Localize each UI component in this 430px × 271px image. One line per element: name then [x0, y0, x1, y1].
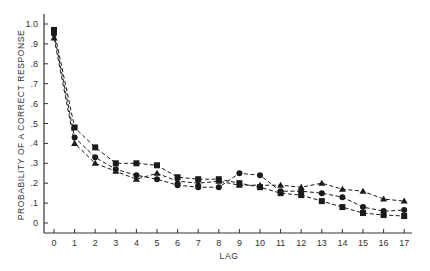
x-tick-label: 5 [154, 238, 159, 248]
x-tick-label: 3 [113, 238, 118, 248]
circle-marker [216, 184, 222, 190]
x-tick-label: 6 [175, 238, 180, 248]
y-tick-label: .4 [30, 138, 38, 148]
circle-marker [339, 194, 345, 200]
x-tick-label: 15 [358, 238, 368, 248]
x-tick-label: 2 [93, 238, 98, 248]
series-circle [51, 31, 407, 214]
y-tick-label: .1 [30, 198, 38, 208]
y-axis-title: PROBABILITY OF A CORRECT RESPONSE [16, 30, 26, 220]
circle-marker [257, 172, 263, 178]
x-tick-label: 1 [72, 238, 77, 248]
x-tick-label: 13 [317, 238, 327, 248]
x-tick-label: 14 [337, 238, 347, 248]
x-tick-label: 11 [276, 238, 285, 248]
axes: 0.1.2.3.4.5.6.7.8.91.0012345678910111213… [25, 14, 412, 248]
triangle-marker [154, 170, 161, 176]
series-line [54, 34, 404, 211]
y-tick-label: .9 [30, 39, 38, 49]
circle-marker [92, 154, 98, 160]
x-tick-label: 4 [134, 238, 139, 248]
circle-marker [401, 207, 407, 213]
y-tick-label: .7 [30, 79, 38, 89]
series-triangle [51, 34, 408, 203]
x-tick-label: 12 [296, 238, 306, 248]
x-tick-label: 8 [216, 238, 221, 248]
y-tick-label: .5 [30, 119, 38, 129]
triangle-marker [339, 186, 346, 192]
y-tick-label: 1.0 [25, 19, 38, 29]
y-tick-label: .8 [30, 59, 38, 69]
circle-marker [278, 188, 284, 194]
square-marker [92, 144, 98, 150]
x-tick-label: 9 [237, 238, 242, 248]
y-tick-label: .6 [30, 99, 38, 109]
series-square [51, 27, 407, 219]
square-marker [133, 160, 139, 166]
series-line [54, 38, 404, 201]
square-marker [401, 213, 407, 219]
circle-marker [236, 170, 242, 176]
y-tick-label: 0 [33, 218, 38, 228]
y-tick-label: .3 [30, 158, 38, 168]
x-tick-label: 0 [51, 238, 56, 248]
circle-marker [72, 134, 78, 140]
x-tick-label: 10 [255, 238, 265, 248]
x-tick-label: 16 [379, 238, 389, 248]
square-marker [360, 210, 366, 216]
y-tick-label: .2 [30, 178, 38, 188]
x-tick-label: 7 [196, 238, 201, 248]
triangle-marker [277, 182, 284, 188]
triangle-marker [360, 188, 367, 194]
triangle-marker [71, 140, 78, 146]
square-marker [154, 162, 160, 168]
x-axis-title: LAG [220, 251, 239, 261]
circle-marker [360, 204, 366, 210]
triangle-marker [318, 180, 325, 186]
series-line [54, 30, 404, 216]
line-chart: 0.1.2.3.4.5.6.7.8.91.0012345678910111213… [0, 0, 430, 271]
series-layer [51, 27, 408, 219]
circle-marker [319, 190, 325, 196]
square-marker [339, 204, 345, 210]
x-tick-label: 17 [399, 238, 409, 248]
circle-marker [381, 208, 387, 214]
square-marker [319, 198, 325, 204]
square-marker [113, 160, 119, 166]
circle-marker [154, 176, 160, 182]
